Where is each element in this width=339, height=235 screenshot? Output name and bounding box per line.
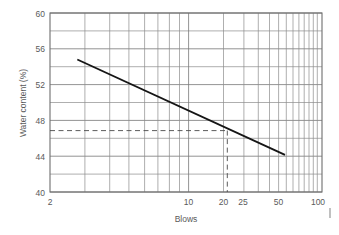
y-axis-tick-labels: 60 56 52 48 44 40 — [36, 9, 46, 198]
x-tick-50: 50 — [274, 197, 284, 207]
y-tick-48: 48 — [36, 116, 46, 126]
x-tick-10: 10 — [184, 197, 194, 207]
x-tick-100: 100 — [311, 197, 325, 207]
flow-curve-chart: 60 56 52 48 44 40 2 10 20 25 50 100 Blow… — [0, 0, 339, 235]
y-tick-56: 56 — [36, 44, 46, 54]
x-axis-title: Blows — [175, 214, 198, 224]
x-tick-20: 20 — [219, 197, 229, 207]
chart-figure: 60 56 52 48 44 40 2 10 20 25 50 100 Blow… — [0, 0, 339, 235]
y-tick-60: 60 — [36, 9, 46, 19]
y-axis-title: Water content (%) — [18, 69, 28, 137]
x-tick-2: 2 — [48, 197, 53, 207]
y-tick-52: 52 — [36, 80, 46, 90]
x-axis-tick-labels: 2 10 20 25 50 100 — [48, 197, 326, 207]
x-tick-25: 25 — [238, 197, 248, 207]
y-tick-40: 40 — [36, 188, 46, 198]
y-tick-44: 44 — [36, 152, 46, 162]
